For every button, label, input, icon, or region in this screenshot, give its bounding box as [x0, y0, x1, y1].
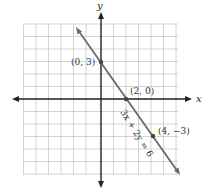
x-axis-label: x [196, 93, 202, 104]
coordinate-plane: x y (0, 3) (2, 0) (4, −3) 3x + 2y = 6 [0, 0, 207, 196]
point-label-2-0: (2, 0) [130, 86, 154, 96]
point-label-0-3: (0, 3) [71, 57, 95, 67]
x-axis [12, 96, 192, 102]
y-axis-label: y [96, 0, 103, 11]
point-label-4-neg3: (4, −3) [158, 126, 190, 136]
point-2-0 [124, 97, 128, 101]
point-0-3 [99, 60, 103, 64]
point-4-neg3 [151, 134, 155, 138]
